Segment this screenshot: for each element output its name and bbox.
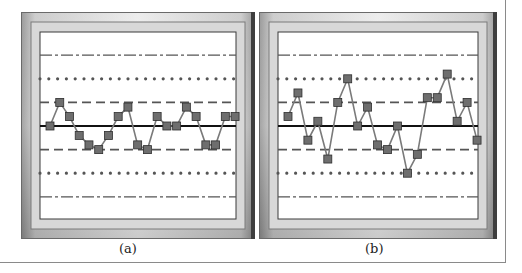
data-point-marker <box>104 131 112 139</box>
data-point-marker <box>473 136 481 144</box>
data-point-marker <box>221 113 229 121</box>
figure-right-rule <box>505 0 506 263</box>
data-point-marker <box>134 141 142 149</box>
data-point-marker <box>114 113 122 121</box>
data-point-marker <box>192 113 200 121</box>
data-point-marker <box>75 131 83 139</box>
data-point-marker <box>153 113 161 121</box>
data-point-marker <box>46 122 54 130</box>
data-point-marker <box>364 103 372 111</box>
data-point-marker <box>334 98 342 106</box>
data-point-marker <box>453 117 461 125</box>
control-chart-a <box>21 12 255 239</box>
data-point-marker <box>173 122 181 130</box>
data-point-marker <box>423 94 431 102</box>
data-point-marker <box>95 146 103 154</box>
data-point-marker <box>143 146 151 154</box>
data-point-marker <box>354 122 362 130</box>
data-point-marker <box>202 141 210 149</box>
data-point-marker <box>85 141 93 149</box>
figure-bottom-rule <box>0 262 506 263</box>
data-point-marker <box>231 113 239 121</box>
data-point-marker <box>403 169 411 177</box>
data-point-marker <box>56 98 64 106</box>
data-point-marker <box>314 117 322 125</box>
data-point-marker <box>463 98 471 106</box>
control-chart-panel-b <box>259 12 497 239</box>
data-point-marker <box>413 150 421 158</box>
data-point-marker <box>304 136 312 144</box>
data-point-marker <box>443 70 451 78</box>
data-point-marker <box>324 155 332 163</box>
data-point-marker <box>344 75 352 83</box>
control-chart-panel-a <box>21 12 255 239</box>
data-point-marker <box>384 146 392 154</box>
data-point-marker <box>294 89 302 97</box>
panel-b-caption: (b) <box>365 241 383 256</box>
data-point-marker <box>284 113 292 121</box>
panel-a-caption: (a) <box>119 241 137 256</box>
data-point-marker <box>433 94 441 102</box>
data-point-marker <box>393 122 401 130</box>
data-point-marker <box>124 103 132 111</box>
data-point-marker <box>182 103 190 111</box>
data-point-marker <box>163 122 171 130</box>
data-point-marker <box>65 113 73 121</box>
control-chart-b <box>259 12 497 239</box>
data-point-marker <box>212 141 220 149</box>
data-point-marker <box>374 141 382 149</box>
